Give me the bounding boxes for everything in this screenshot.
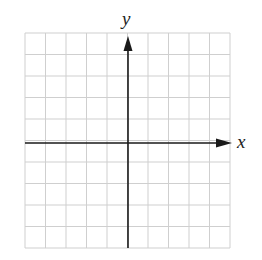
x-axis-label: x bbox=[236, 131, 246, 152]
y-axis-label: y bbox=[120, 8, 131, 29]
coordinate-plane: x y bbox=[0, 0, 262, 260]
y-axis bbox=[124, 36, 133, 248]
y-axis-arrow-icon bbox=[124, 36, 133, 51]
